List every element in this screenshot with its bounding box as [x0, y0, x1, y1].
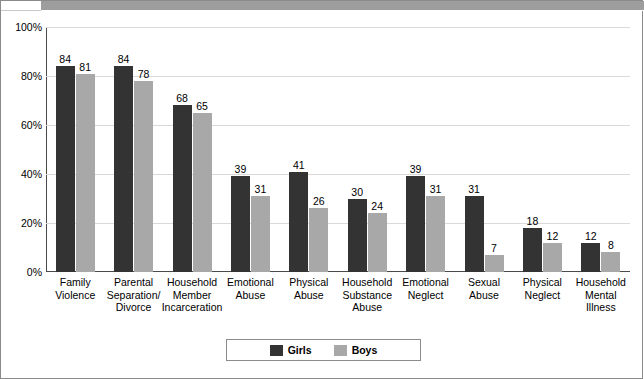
category-label-line: Abuse — [331, 301, 403, 314]
y-axis-tick-labels: 0%20%40%60%80%100% — [1, 27, 42, 272]
bar-value-label: 84 — [118, 53, 130, 65]
bar: 41 — [289, 172, 308, 272]
bar: 31 — [251, 196, 270, 272]
bar-value-label: 39 — [235, 163, 247, 175]
header-strip-left — [1, 1, 41, 11]
bar-value-label: 12 — [547, 230, 559, 242]
category-label-line: Incarceration — [156, 301, 228, 314]
bar-value-label: 65 — [196, 100, 208, 112]
header-strip — [1, 1, 644, 11]
bar: 18 — [523, 228, 542, 272]
legend-label-girls: Girls — [288, 344, 312, 356]
y-axis-tick-label: 100% — [15, 21, 42, 33]
bar: 12 — [581, 243, 600, 272]
bar-value-label: 31 — [468, 183, 480, 195]
bar: 12 — [543, 243, 562, 272]
gridline — [46, 27, 630, 28]
bar: 84 — [114, 66, 133, 272]
bar: 8 — [601, 252, 620, 272]
bar: 39 — [231, 176, 250, 272]
bar: 26 — [309, 208, 328, 272]
bar-value-label: 18 — [527, 215, 539, 227]
bar: 78 — [134, 81, 153, 272]
bar-value-label: 12 — [585, 230, 597, 242]
bar: 81 — [76, 74, 95, 272]
legend-item-girls: Girls — [270, 344, 312, 356]
bar-value-label: 26 — [313, 195, 325, 207]
category-label-line: Illness — [565, 301, 637, 314]
bar: 31 — [465, 196, 484, 272]
legend-swatch-boys — [334, 345, 347, 356]
y-axis-tick-label: 80% — [21, 70, 42, 82]
bar: 84 — [56, 66, 75, 272]
legend-swatch-girls — [270, 345, 283, 356]
bar: 39 — [406, 176, 425, 272]
bar-value-label: 39 — [410, 163, 422, 175]
bar-value-label: 30 — [351, 186, 363, 198]
header-strip-band — [41, 1, 644, 10]
bar-value-label: 8 — [608, 239, 614, 251]
y-axis-tick-label: 20% — [21, 217, 42, 229]
bar-value-label: 31 — [255, 183, 267, 195]
bar-value-label: 24 — [371, 200, 383, 212]
bar-value-label: 68 — [176, 92, 188, 104]
gridline — [46, 76, 630, 77]
x-axis-category-label: HouseholdMentalIllness — [565, 276, 637, 314]
x-axis-category-labels: FamilyViolenceParentalSeparation/Divorce… — [46, 276, 630, 332]
plot-area: 84846839413039311812817865312624317128 — [46, 27, 630, 272]
bar: 24 — [368, 213, 387, 272]
bar-value-label: 84 — [59, 53, 71, 65]
bar: 31 — [426, 196, 445, 272]
bar-value-label: 41 — [293, 159, 305, 171]
bar: 65 — [193, 113, 212, 272]
bar-value-label: 78 — [138, 68, 150, 80]
bar: 68 — [173, 105, 192, 272]
bar-value-label: 31 — [430, 183, 442, 195]
category-label-line: Mental — [565, 289, 637, 302]
bar: 30 — [348, 199, 367, 273]
y-axis-tick-label: 60% — [21, 119, 42, 131]
bar: 7 — [485, 255, 504, 272]
legend-item-boys: Boys — [334, 344, 378, 356]
y-axis-tick-label: 40% — [21, 168, 42, 180]
bar-value-label: 81 — [79, 61, 91, 73]
bar-value-label: 7 — [491, 242, 497, 254]
category-label-line: Household — [565, 276, 637, 289]
legend-label-boys: Boys — [352, 344, 378, 356]
legend: Girls Boys — [226, 339, 421, 361]
